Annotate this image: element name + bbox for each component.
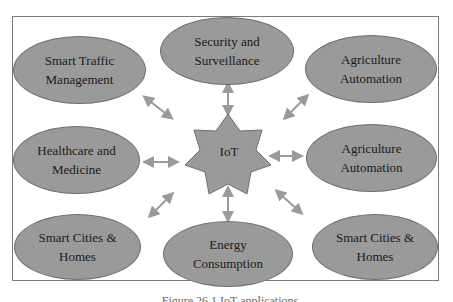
node-smart-traffic: Smart Traffic Management	[13, 36, 146, 104]
iot-center-label: IoT	[209, 144, 249, 160]
figure-caption: Figure 26.1 IoT applications	[130, 290, 330, 302]
node-smart-cities-2: Smart Cities & Homes	[312, 214, 438, 280]
node-label: Energy Consumption	[193, 235, 263, 273]
node-smart-cities-1: Smart Cities & Homes	[14, 214, 141, 280]
arrow-smart-cities-2	[279, 193, 299, 211]
node-agriculture-1: Agriculture Automation	[305, 35, 437, 103]
node-energy: Energy Consumption	[163, 221, 293, 287]
node-label: Smart Cities & Homes	[39, 228, 117, 266]
arrow-smart-traffic	[147, 99, 169, 116]
node-agriculture-2: Agriculture Automation	[306, 124, 437, 192]
node-label: Healthcare and Medicine	[37, 141, 115, 179]
node-label: Smart Cities & Homes	[336, 228, 414, 266]
node-healthcare: Healthcare and Medicine	[13, 126, 140, 194]
node-security: Security and Surveillance	[160, 17, 294, 85]
arrow-smart-cities-1	[152, 196, 170, 214]
arrow-agriculture-1	[287, 98, 305, 116]
node-label: Security and Surveillance	[194, 32, 259, 70]
node-label: Agriculture Automation	[340, 139, 402, 177]
node-label: Agriculture Automation	[340, 50, 402, 88]
node-label: Smart Traffic Management	[45, 51, 114, 89]
